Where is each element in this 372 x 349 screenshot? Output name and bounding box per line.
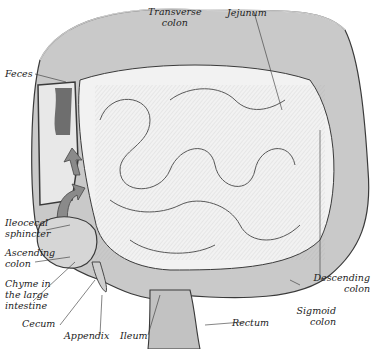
label-rectum: Rectum — [232, 317, 269, 328]
rectum-shape — [148, 290, 200, 349]
intestine-diagram: Transverse colon Jejunum Feces Ileocecal… — [0, 0, 372, 349]
label-cecum: Cecum — [22, 318, 55, 329]
label-ascending-colon: Ascending colon — [5, 247, 55, 269]
label-transverse-colon: Transverse colon — [148, 6, 202, 28]
label-feces: Feces — [5, 68, 33, 79]
feces-shape — [55, 88, 72, 135]
label-chyme: Chyme in the large intestine — [5, 278, 51, 311]
label-jejunum: Jejunum — [227, 7, 267, 18]
label-sigmoid-colon: Sigmoid colon — [296, 305, 336, 327]
label-appendix: Appendix — [64, 330, 109, 341]
intestine-illustration — [0, 0, 372, 349]
label-descending-colon: Descending colon — [312, 272, 370, 294]
label-ileum: Ileum — [120, 330, 148, 341]
label-ileocecal-sphincter: Ileocecal sphincter — [5, 217, 51, 239]
